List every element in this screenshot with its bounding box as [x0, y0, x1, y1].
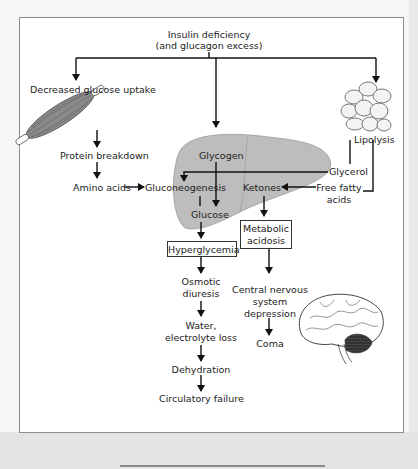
root-label-line2: (and glucagon excess) [149, 40, 269, 52]
ketones-label: Ketones [243, 182, 281, 194]
osmotic-diuresis-label-2: diuresis [180, 288, 222, 300]
glucose-label: Glucose [191, 209, 229, 221]
root-label-line1: Insulin deficiency [159, 29, 259, 41]
protein-breakdown-label: Protein breakdown [60, 150, 149, 162]
circulatory-failure-label: Circulatory failure [159, 393, 243, 405]
hyperglycemia-box: Hyperglycemia [167, 241, 237, 257]
metabolic-acidosis-box: Metabolic acidosis [240, 220, 292, 249]
coma-label: Coma [252, 338, 288, 350]
cns-depression-label-3: depression [232, 308, 308, 320]
free-fatty-acids-label-1: Free fatty [315, 182, 363, 194]
cns-depression-label-2: system [232, 296, 308, 308]
amino-acids-label: Amino acids [73, 182, 131, 194]
brain-icon [299, 294, 383, 364]
fat-cells-icon [341, 82, 391, 131]
cns-depression-label-1: Central nervous [232, 284, 308, 296]
metabolic-acidosis-line1: Metabolic [241, 223, 291, 235]
free-fatty-acids-label-2: acids [315, 194, 363, 206]
glycogen-label: Glycogen [199, 150, 244, 162]
water-electrolyte-label-2: electrolyte loss [163, 332, 239, 344]
metabolic-acidosis-line2: acidosis [241, 235, 291, 247]
decreased-glucose-uptake-label: Decreased glucose uptake [30, 84, 156, 96]
gluconeogenesis-label: Gluconeogenesis [145, 182, 226, 194]
osmotic-diuresis-label-1: Osmotic [180, 276, 222, 288]
dehydration-label: Dehydration [171, 364, 231, 376]
glycerol-label: Glycerol [329, 166, 368, 178]
water-electrolyte-label-1: Water, [171, 320, 231, 332]
lipolysis-label: Lipolysis [354, 134, 395, 146]
